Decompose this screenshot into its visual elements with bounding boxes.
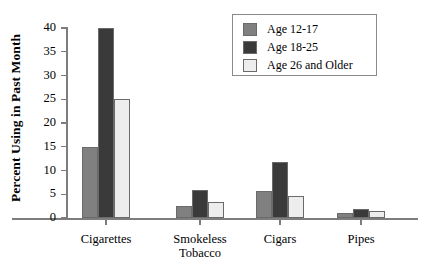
y-tick-mark [61, 122, 66, 123]
bar [208, 202, 224, 218]
y-tick-label: 25 [16, 92, 56, 105]
bar [288, 196, 304, 218]
y-tick-mark [61, 194, 66, 195]
legend-label: Age 26 and Older [267, 58, 353, 73]
chart-legend: Age 12-17Age 18-25Age 26 and Older [232, 14, 377, 76]
bar [272, 162, 288, 218]
y-axis-line [66, 27, 68, 219]
legend-swatch [243, 41, 257, 54]
bar-chart: Percent Using in Past Month 051015202530… [0, 0, 430, 273]
y-tick-mark [61, 27, 66, 28]
y-tick-mark [61, 217, 66, 218]
x-tick-mark [360, 219, 362, 225]
bar [114, 99, 130, 218]
bar [176, 206, 192, 218]
y-tick-label: 5 [16, 187, 56, 200]
y-tick-label: 30 [16, 69, 56, 82]
y-tick-label: 35 [16, 45, 56, 58]
bar [256, 191, 272, 218]
y-tick-mark [61, 170, 66, 171]
x-tick-mark [199, 219, 201, 225]
bar [82, 147, 98, 218]
y-tick-mark [61, 51, 66, 52]
y-tick-label: 40 [16, 21, 56, 34]
y-tick-mark [61, 146, 66, 147]
bar [369, 211, 385, 218]
legend-label: Age 12-17 [267, 22, 318, 37]
bar [192, 190, 208, 218]
legend-swatch [243, 59, 257, 72]
bar [98, 28, 114, 218]
y-tick-label: 0 [16, 211, 56, 224]
y-tick-label: 15 [16, 140, 56, 153]
y-tick-mark [61, 99, 66, 100]
y-tick-mark [61, 75, 66, 76]
bar [337, 213, 353, 218]
x-tick-mark [279, 219, 281, 225]
legend-swatch [243, 23, 257, 36]
y-tick-label: 10 [16, 164, 56, 177]
x-tick-mark [105, 219, 107, 225]
y-tick-label: 20 [16, 116, 56, 129]
legend-label: Age 18-25 [267, 40, 318, 55]
x-axis-category-label: Pipes [301, 233, 421, 247]
bar [353, 209, 369, 218]
x-axis-line [12, 218, 418, 220]
